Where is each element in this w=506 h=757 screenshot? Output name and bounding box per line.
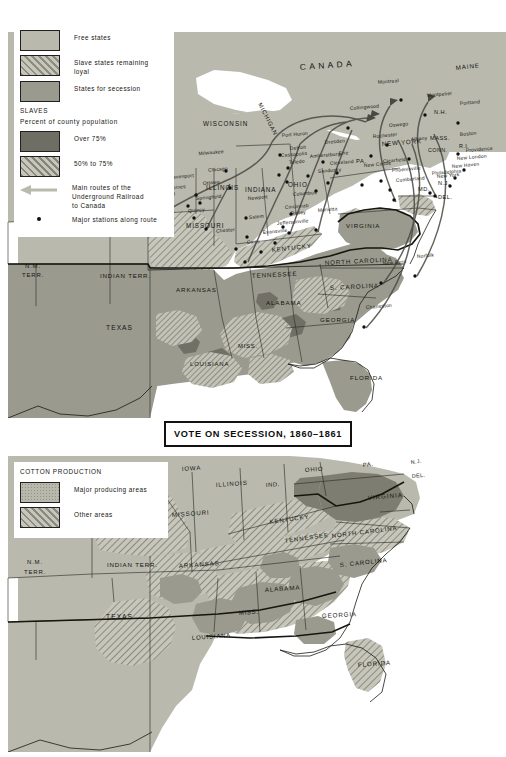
cotton-legend: COTTON PRODUCTION Major producing areas … [14, 462, 168, 538]
legend-slaves-heading-line1: SLAVES [20, 106, 168, 116]
region-label: MD. [418, 186, 430, 192]
top-map-legend: Free states Slave states remaining loyal… [14, 26, 174, 237]
region-label: GEORGIA [320, 316, 355, 323]
legend-major-stations: Major stations along route [20, 215, 168, 225]
legend-over-75: Over 75% [20, 131, 168, 152]
cotton-legend-heading: COTTON PRODUCTION [20, 467, 162, 477]
legend-major-producing-areas: Major producing areas [20, 482, 162, 503]
swatch-over-75 [20, 131, 60, 152]
legend-main-routes: Main routes of the Underground Railroad … [20, 183, 168, 211]
legend-secession-states: States for secession [20, 81, 168, 102]
map-title-text: VOTE ON SECESSION, 1860–1861 [174, 429, 342, 439]
region-label: TEXAS [106, 324, 133, 331]
region-label: ALABAMA [266, 299, 302, 306]
region-label: N.M. [25, 263, 41, 269]
region-label: CONN. [428, 147, 447, 153]
legend-label-secession-states: States for secession [74, 81, 141, 93]
swatch-fifty-to-seventyfive [20, 156, 60, 177]
station-dot-icon [20, 215, 58, 225]
legend-loyal-slave-states: Slave states remaining loyal [20, 55, 168, 77]
region-label: TERR. [24, 569, 46, 575]
swatch-free-states [20, 30, 60, 51]
swatch-loyal-slave-states [20, 55, 60, 76]
legend-free-states: Free states [20, 30, 168, 51]
region-label: INDIAN TERR. [100, 272, 151, 279]
legend-label-other-areas: Other areas [74, 507, 113, 519]
region-label: MASS. [430, 135, 450, 141]
legend-label-loyal-slave-states: Slave states remaining loyal [74, 55, 149, 77]
region-label: N.J. [438, 180, 450, 186]
legend-other-areas: Other areas [20, 507, 162, 528]
region-label: PA. [362, 461, 373, 468]
legend-label-main-routes: Main routes of the Underground Railroad … [72, 183, 144, 211]
swatch-secession-states [20, 81, 60, 102]
region-label: N.M. [27, 559, 43, 565]
legend-label-over-75: Over 75% [74, 131, 106, 143]
region-label: INDIAN TERR. [107, 561, 158, 568]
swatch-other-areas [20, 507, 60, 528]
swatch-major-producing-areas [20, 482, 60, 503]
region-label: TEXAS [106, 613, 133, 620]
region-label: FLORIDA [350, 374, 383, 381]
map-title-plate: VOTE ON SECESSION, 1860–1861 [164, 421, 352, 447]
region-label: TERR. [22, 272, 44, 278]
route-arrow-icon [20, 183, 58, 197]
region-label: ARKANSAS [176, 286, 217, 293]
region-label: N.H. [434, 109, 447, 115]
legend-label-major-producing-areas: Major producing areas [74, 482, 147, 494]
region-label: WISCONSIN [203, 120, 248, 127]
region-label: N.J. [410, 458, 421, 465]
region-label: LOUISIANA [190, 361, 229, 367]
region-label: INDIANA [245, 186, 276, 193]
legend-fifty-to-seventyfive: 50% to 75% [20, 156, 168, 177]
legend-label-fifty-to-seventyfive: 50% to 75% [74, 156, 113, 168]
region-label: MISS. [238, 343, 258, 349]
region-label: DEL. [438, 194, 452, 200]
region-label: VIRGINIA [346, 222, 380, 229]
legend-label-free-states: Free states [74, 30, 111, 42]
region-label: OHIO [288, 181, 308, 188]
legend-slaves-heading-line2: Percent of county population [20, 117, 168, 127]
legend-label-major-stations: Major stations along route [72, 215, 157, 224]
region-label: IND. [266, 481, 280, 488]
